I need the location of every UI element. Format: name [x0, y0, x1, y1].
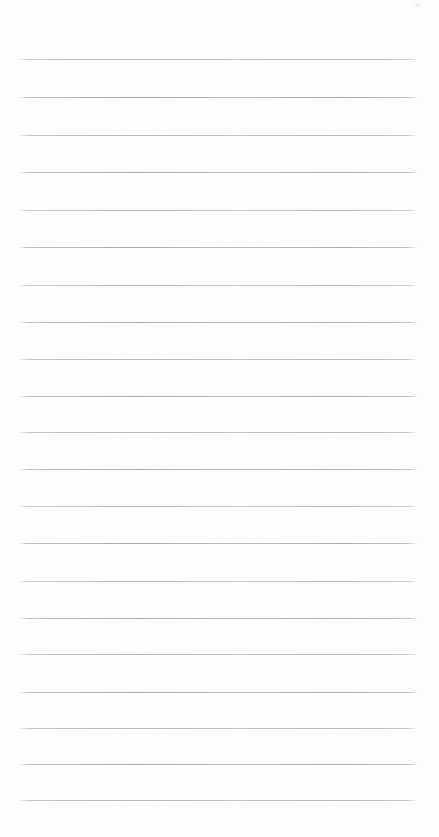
- ruled-line: [18, 543, 418, 544]
- ruled-line: [18, 618, 418, 619]
- ruled-line: [18, 285, 418, 286]
- ruled-line: [18, 59, 418, 60]
- ruled-line: [18, 322, 418, 323]
- ruled-line: [18, 172, 418, 173]
- lined-paper-page: [0, 0, 439, 837]
- ruled-line: [18, 469, 418, 470]
- ruled-line: [18, 396, 418, 397]
- ruled-line: [18, 359, 418, 360]
- ruled-line: [18, 654, 418, 655]
- scan-artifact-speck: [415, 3, 420, 7]
- ruled-line: [18, 800, 418, 801]
- ruled-line: [18, 728, 418, 729]
- ruled-line: [18, 135, 418, 136]
- ruled-line: [18, 97, 418, 98]
- ruled-line: [18, 432, 418, 433]
- ruled-line: [18, 764, 418, 765]
- ruled-line: [18, 247, 418, 248]
- ruled-line: [18, 581, 418, 582]
- ruled-line: [18, 210, 418, 211]
- ruled-line: [18, 506, 418, 507]
- ruled-line: [18, 692, 418, 693]
